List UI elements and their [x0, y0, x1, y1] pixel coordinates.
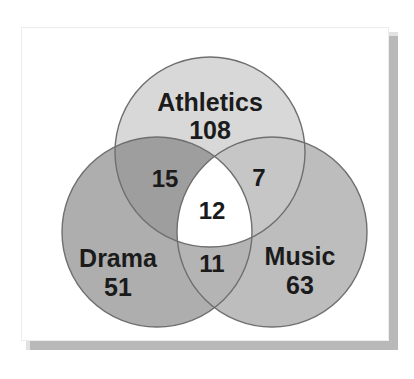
label-drama-count: 51	[104, 273, 132, 301]
label-drama-name: Drama	[79, 244, 158, 272]
label-music-name: Music	[265, 242, 336, 270]
label-athletics-music-count: 7	[252, 164, 265, 191]
venn-diagram-root: Athletics 108 Drama 51 Music 63 15 7 11 …	[0, 0, 414, 379]
label-athletics-drama-count: 15	[152, 165, 179, 192]
label-athletics-count: 108	[189, 116, 231, 144]
label-athletics-name: Athletics	[157, 88, 263, 116]
label-triple-intersection-count: 12	[199, 197, 226, 224]
label-drama-music-count: 11	[199, 250, 224, 277]
label-music-count: 63	[286, 271, 314, 299]
venn-svg-canvas: Athletics 108 Drama 51 Music 63 15 7 11 …	[0, 0, 414, 379]
